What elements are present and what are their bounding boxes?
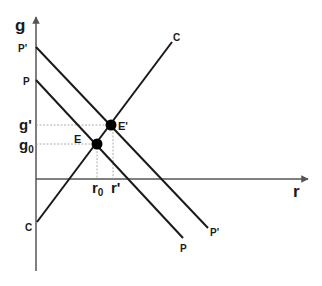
tick-r-prime: r': [111, 179, 120, 196]
equilibrium-diagram: g r P' P C C P' P E E' g' g0 r0 r': [0, 0, 322, 286]
tick-g0-base: g: [19, 136, 28, 153]
tick-r0: r0: [92, 179, 104, 198]
curve-p-prime-end-label: P': [210, 227, 219, 238]
curve-c-end-label: C: [173, 32, 180, 43]
point-e-prime-label: E': [118, 120, 128, 132]
curve-p: [36, 80, 183, 238]
curve-c-start-label: C: [25, 222, 32, 233]
y-axis-label: g: [15, 16, 25, 35]
curve-p-prime: [36, 47, 208, 228]
curve-p-start-label: P: [23, 76, 30, 87]
tick-g0: g0: [19, 136, 34, 155]
curve-p-prime-start-label: P': [18, 43, 27, 54]
equilibrium-point-e-prime: [106, 120, 117, 131]
tick-g-prime: g': [19, 116, 32, 133]
curve-p-end-label: P: [180, 243, 187, 254]
tick-r0-sub: 0: [98, 187, 104, 198]
x-axis-label: r: [293, 182, 300, 201]
tick-g0-sub: 0: [28, 144, 34, 155]
point-e-label: E: [74, 133, 81, 145]
equilibrium-point-e: [92, 139, 103, 150]
